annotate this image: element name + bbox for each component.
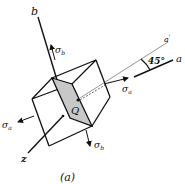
z-axis xyxy=(28,116,63,153)
point-q-label: Q xyxy=(71,105,79,116)
figure-caption: (a) xyxy=(60,171,75,184)
sigma-a-left-arrow xyxy=(18,116,34,122)
a-axis-hidden xyxy=(80,85,105,100)
b-axis-label: b xyxy=(31,5,38,18)
angle-label: 45° xyxy=(148,56,165,66)
sigma-b-top-label: σb xyxy=(55,45,65,56)
z-axis-dot xyxy=(62,115,65,118)
sigma-a-right-label: σa xyxy=(122,84,132,95)
stress-element-diagram: b σb a' a 45° σa Q z σa σb (a) xyxy=(0,0,185,184)
shaded-plane xyxy=(52,78,92,126)
z-axis-label: z xyxy=(20,153,27,164)
sigma-b-bottom-label: σb xyxy=(94,140,104,151)
a-axis-label: a xyxy=(176,53,182,64)
sigma-b-bottom-arrow xyxy=(86,130,90,146)
sigma-a-left-label: σa xyxy=(2,120,12,131)
a-prime-label: a' xyxy=(164,33,171,44)
point-q xyxy=(77,99,80,102)
